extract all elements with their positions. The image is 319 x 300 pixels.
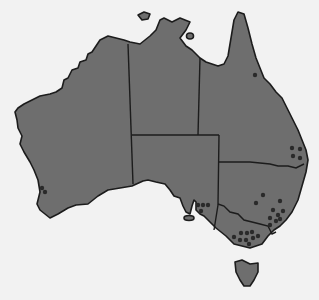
location-marker bbox=[298, 156, 302, 160]
location-marker bbox=[281, 209, 285, 213]
location-marker bbox=[253, 73, 257, 77]
tasmania bbox=[235, 260, 258, 286]
location-marker bbox=[239, 231, 243, 235]
location-marker bbox=[232, 235, 236, 239]
location-marker bbox=[43, 190, 47, 194]
melville-island bbox=[138, 12, 150, 20]
location-marker bbox=[244, 238, 248, 242]
australia-map: Australia bbox=[0, 0, 319, 300]
location-marker bbox=[268, 223, 272, 227]
location-marker bbox=[274, 219, 278, 223]
location-marker bbox=[247, 242, 251, 246]
location-marker bbox=[250, 230, 254, 234]
location-marker bbox=[290, 146, 294, 150]
location-marker bbox=[199, 209, 203, 213]
location-marker bbox=[201, 203, 205, 207]
location-marker bbox=[40, 186, 44, 190]
groote-eylandt bbox=[187, 33, 194, 39]
location-marker bbox=[268, 216, 272, 220]
location-marker bbox=[276, 213, 280, 217]
kangaroo-island bbox=[184, 216, 194, 221]
location-marker bbox=[261, 193, 265, 197]
mainland bbox=[15, 12, 308, 248]
location-marker bbox=[206, 203, 210, 207]
location-marker bbox=[256, 234, 260, 238]
location-marker bbox=[298, 147, 302, 151]
map-canvas bbox=[0, 0, 319, 300]
location-marker bbox=[238, 238, 242, 242]
location-marker bbox=[278, 199, 282, 203]
location-marker bbox=[278, 217, 282, 221]
location-marker bbox=[271, 208, 275, 212]
location-marker bbox=[196, 203, 200, 207]
location-marker bbox=[245, 231, 249, 235]
location-marker bbox=[254, 201, 258, 205]
location-marker bbox=[251, 236, 255, 240]
location-marker bbox=[291, 154, 295, 158]
